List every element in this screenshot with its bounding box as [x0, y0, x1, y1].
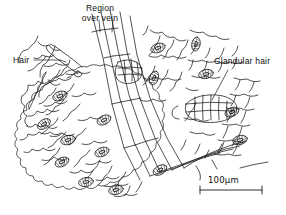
label-region-over-vein: Region over vein: [66, 4, 134, 23]
figure-canvas: Region over vein Hair Glandular hair 100…: [0, 0, 286, 215]
glandular-hair: [172, 95, 237, 123]
scale-bar-label: 100μm: [208, 176, 239, 186]
label-hair: Hair: [13, 56, 29, 66]
epidermis-drawing: [0, 0, 286, 215]
label-glandular-hair: Glandular hair: [214, 57, 270, 67]
label-region-over-vein-line2: over vein: [66, 14, 134, 24]
scale-bar: [200, 186, 262, 194]
segmented-trichome: [115, 59, 142, 84]
tissue-outline: [15, 65, 165, 190]
epidermal-cell-walls: [19, 26, 260, 197]
